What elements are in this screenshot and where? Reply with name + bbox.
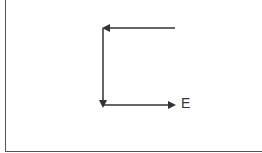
down-arrowhead-icon [99,100,107,108]
right-arrowhead-icon [168,101,176,109]
arrow-diagram [0,0,262,153]
end-label: E [181,96,190,110]
